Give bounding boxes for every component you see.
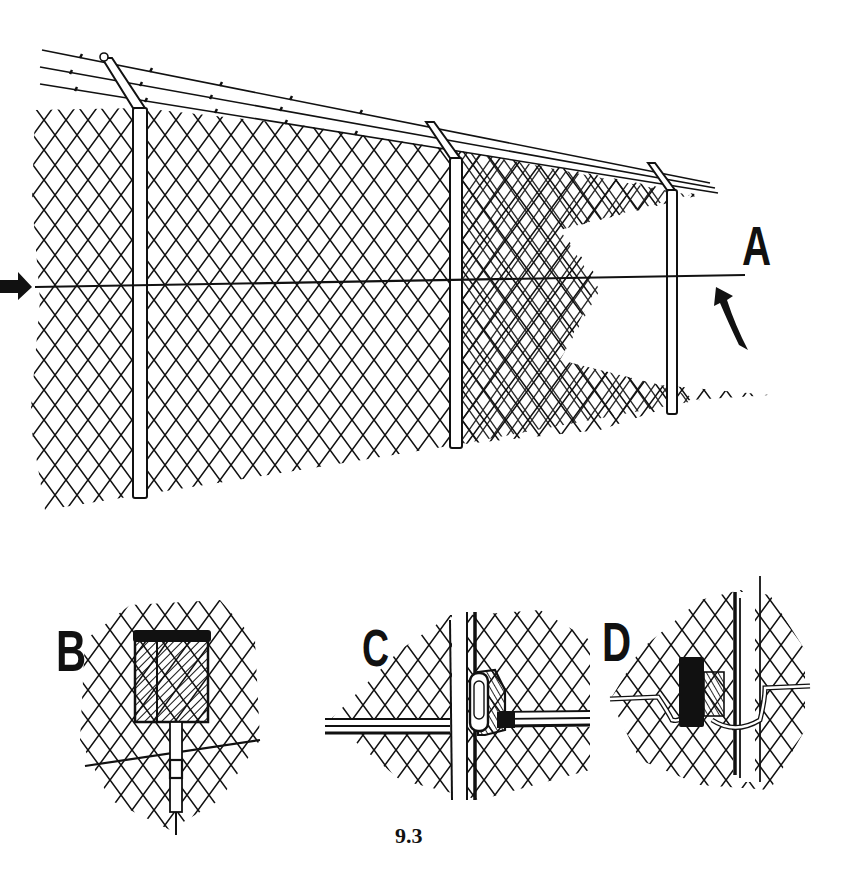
figure-number: 9.3 [395,825,423,847]
cable-pair-left [325,718,450,733]
label-b: B [56,622,86,680]
fence-illustration [0,0,851,889]
panel-b-processor [80,600,265,835]
panel-d-cable-loop [600,576,810,800]
panel-a-fence [0,50,770,510]
left-arrow-icon [0,272,32,300]
label-d: D [602,614,631,670]
junction-block [679,657,704,727]
label-a: A [742,218,771,274]
processor-box [135,640,208,722]
a-arrow-icon [714,287,748,350]
label-c: C [362,622,389,674]
